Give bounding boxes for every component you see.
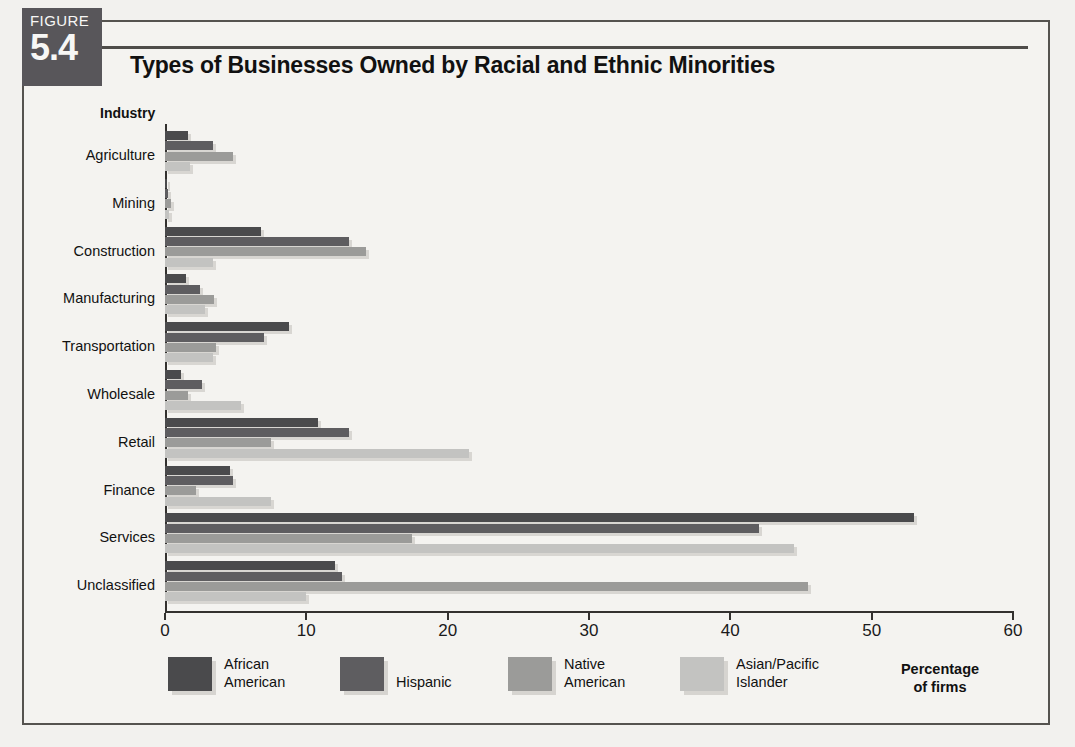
bar-wholesale-native-american [165,391,188,400]
category-label-construction: Construction [5,243,155,259]
bar-services-hispanic [165,524,759,533]
bar-fill [165,561,335,570]
bar-finance-hispanic [165,476,233,485]
category-label-retail: Retail [5,434,155,450]
bar-mining-native-american [165,199,171,208]
legend-label-line: African [224,655,285,673]
axis-tick-40 [729,613,731,620]
bar-fill [165,295,214,304]
legend-swatch-fill [680,657,724,691]
legend-label-line: Hispanic [396,673,452,691]
bar-fill [165,305,205,314]
bar-fill [165,497,271,506]
bar-retail-asian-pacific-islander [165,449,469,458]
figure-tag-number: 5.4 [30,28,102,68]
legend-swatch [680,657,724,691]
bar-fill [165,322,289,331]
legend-swatch-fill [340,657,384,691]
axis-tick-label-0: 0 [160,621,169,641]
chart-legend: AfricanAmericanHispanicNativeAmericanAsi… [168,655,868,715]
axis-tick-50 [871,613,873,620]
bar-fill [165,418,318,427]
bar-fill [165,534,412,543]
bar-fill [165,199,171,208]
legend-label-line: Asian/Pacific [736,655,819,673]
bar-fill [165,333,264,342]
bar-fill [165,152,233,161]
bar-services-native-american [165,534,412,543]
figure-number-tag: FIGURE 5.4 [22,8,102,86]
bar-mining-african-american [165,179,167,188]
bar-fill [165,343,216,352]
bar-transportation-hispanic [165,333,264,342]
bar-manufacturing-asian-pacific-islander [165,305,205,314]
legend-label-line: American [224,673,285,691]
axis-tick-60 [1012,613,1014,620]
bar-fill [165,476,233,485]
bar-fill [165,428,349,437]
axis-tick-label-20: 20 [438,621,457,641]
category-label-services: Services [5,529,155,545]
bar-services-asian-pacific-islander [165,544,794,553]
legend-label-line: Islander [736,673,819,691]
legend-label: NativeAmerican [564,655,625,691]
category-label-wholesale: Wholesale [5,386,155,402]
bar-unclassified-hispanic [165,572,342,581]
bar-mining-asian-pacific-islander [165,210,169,219]
bar-finance-asian-pacific-islander [165,497,271,506]
axis-tick-label-40: 40 [721,621,740,641]
category-axis-title: Industry [100,105,155,121]
bar-fill [165,486,196,495]
axis-tick-10 [305,613,307,620]
category-label-finance: Finance [5,482,155,498]
bar-retail-hispanic [165,428,349,437]
axis-tick-20 [447,613,449,620]
bar-fill [165,438,271,447]
category-label-mining: Mining [5,195,155,211]
bar-fill [165,162,190,171]
legend-swatch [340,657,384,691]
bar-agriculture-native-american [165,152,233,161]
bar-agriculture-asian-pacific-islander [165,162,190,171]
category-label-manufacturing: Manufacturing [5,290,155,306]
bar-unclassified-native-american [165,582,808,591]
bar-fill [165,189,168,198]
bar-fill [165,247,366,256]
bar-transportation-african-american [165,322,289,331]
axis-tick-label-50: 50 [862,621,881,641]
bar-fill [165,227,261,236]
bar-fill [165,572,342,581]
legend-label: Asian/PacificIslander [736,655,819,691]
axis-caption-line-1: Percentage [880,660,1000,678]
bar-retail-african-american [165,418,318,427]
axis-tick-label-30: 30 [580,621,599,641]
legend-swatch-fill [508,657,552,691]
bar-fill [165,353,213,362]
bar-fill [165,391,188,400]
legend-label-line: American [564,673,625,691]
bar-fill [165,370,181,379]
bar-services-african-american [165,513,914,522]
legend-label: AfricanAmerican [224,655,285,691]
bar-fill [165,582,808,591]
axis-caption-line-2: of firms [880,678,1000,696]
value-axis-caption: Percentage of firms [880,660,1000,696]
bar-construction-native-american [165,247,366,256]
bar-transportation-asian-pacific-islander [165,353,213,362]
bar-agriculture-hispanic [165,141,213,150]
bar-construction-african-american [165,227,261,236]
bar-wholesale-asian-pacific-islander [165,401,241,410]
bar-retail-native-american [165,438,271,447]
category-label-agriculture: Agriculture [5,147,155,163]
bar-fill [165,513,914,522]
bar-fill [165,179,167,188]
bar-fill [165,466,230,475]
bar-fill [165,544,794,553]
bar-wholesale-african-american [165,370,181,379]
legend-swatch [168,657,212,691]
legend-label: Hispanic [396,673,452,691]
legend-swatch-fill [168,657,212,691]
category-label-transportation: Transportation [5,338,155,354]
bar-finance-native-american [165,486,196,495]
bar-fill [165,131,188,140]
